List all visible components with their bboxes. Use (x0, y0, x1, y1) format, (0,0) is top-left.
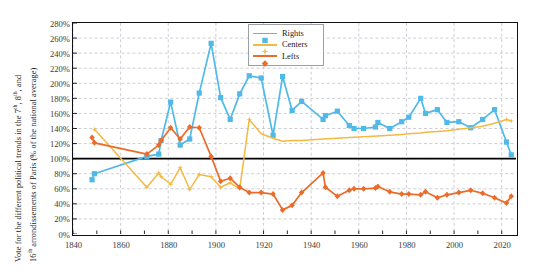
y-tick-60: 60% (54, 184, 70, 194)
legend-item-rights: Rights (253, 28, 319, 39)
x-tick-1940: 1940 (303, 240, 320, 250)
legend-swatch-centers (253, 40, 277, 49)
y-tick-140: 140% (50, 124, 70, 134)
y-tick-220: 220% (50, 64, 70, 74)
x-tick-1880: 1880 (160, 240, 177, 250)
y-tick-240: 240% (50, 49, 70, 59)
y-tick-260: 260% (50, 34, 70, 44)
y-tick-160: 160% (50, 109, 70, 119)
x-tick-1980: 1980 (398, 240, 415, 250)
y-tick-100: 100% (50, 154, 70, 164)
x-tick-1920: 1920 (255, 240, 272, 250)
legend-swatch-rights (253, 29, 277, 38)
y-tick-200: 200% (50, 79, 70, 89)
y-tick-0: 0% (59, 230, 70, 240)
x-tick-1860: 1860 (113, 240, 130, 250)
series-lefts (89, 124, 514, 213)
y-tick-280: 280% (50, 19, 70, 29)
chart-legend: Rights Centers Lefts (248, 24, 324, 66)
x-tick-1840: 1840 (65, 240, 82, 250)
x-tick-1960: 1960 (351, 240, 368, 250)
y-axis-tick-labels: 0%20%40%60%80%100%120%140%160%180%200%22… (0, 22, 70, 236)
chart-figure: Vote for the different political trends … (0, 0, 541, 272)
y-tick-20: 20% (54, 214, 70, 224)
legend-item-lefts: Lefts (253, 51, 319, 62)
x-tick-2020: 2020 (494, 240, 511, 250)
y-tick-180: 180% (50, 94, 70, 104)
x-tick-1900: 1900 (208, 240, 225, 250)
x-axis-tick-labels: 1840186018801900192019401960198020002020 (72, 240, 518, 256)
legend-label-centers: Centers (282, 40, 308, 49)
y-tick-40: 40% (54, 199, 70, 209)
y-tick-80: 80% (54, 169, 70, 179)
legend-label-rights: Rights (282, 29, 304, 38)
y-tick-120: 120% (50, 139, 70, 149)
legend-label-lefts: Lefts (282, 52, 299, 61)
legend-item-centers: Centers (253, 39, 319, 50)
x-tick-2000: 2000 (446, 240, 463, 250)
legend-swatch-lefts (253, 52, 277, 61)
